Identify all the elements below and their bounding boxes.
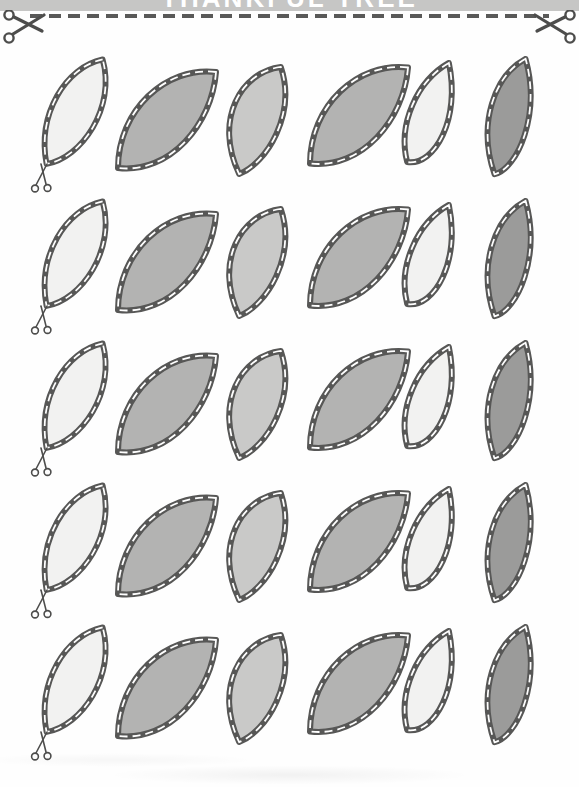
mini-scissors-icon [28, 589, 56, 621]
leaf-border [405, 205, 452, 304]
leaf-cutout [391, 201, 471, 316]
leaf-cutout [211, 62, 303, 181]
leaf-border [229, 351, 285, 458]
leaf-cutout [108, 634, 226, 746]
leaf-row [0, 621, 579, 763]
leaf-border [488, 59, 531, 174]
leaf-cutout [391, 485, 471, 600]
leaf-cutout [475, 480, 547, 610]
leaf-border [488, 485, 531, 600]
leaf-row [0, 195, 579, 337]
leaf-cutout [108, 208, 226, 320]
leaf-cutout [211, 346, 303, 465]
leaf-border [405, 63, 452, 162]
leaf-border [118, 639, 216, 736]
mini-scissors-icon [28, 305, 56, 337]
leaf-border [229, 493, 285, 600]
leaf-border [488, 627, 531, 742]
leaf-cutout [108, 492, 226, 604]
mini-scissors-icon [28, 447, 56, 479]
mini-scissors-icon [28, 163, 56, 195]
leaf-row [0, 53, 579, 195]
leaf-border [118, 497, 216, 594]
leaf-cutout [211, 204, 303, 323]
leaf-border [405, 631, 452, 730]
leaf-cutout [108, 66, 226, 178]
leaf-row [0, 337, 579, 479]
leaf-cutout [475, 338, 547, 468]
leaf-cutout [211, 488, 303, 607]
leaf-border [488, 201, 531, 316]
leaf-border [229, 67, 285, 174]
leaf-border [118, 71, 216, 168]
leaf-cutout [475, 196, 547, 326]
leaf-cutout [475, 622, 547, 752]
leaf-border [488, 343, 531, 458]
leaf-cutout [475, 54, 547, 184]
leaf-cutout [391, 343, 471, 458]
leaf-cutout [108, 350, 226, 462]
leaf-cutout [391, 627, 471, 742]
leaf-border [405, 489, 452, 588]
leaf-border [405, 347, 452, 446]
leaf-cutout [211, 630, 303, 749]
leaf-border [118, 213, 216, 310]
leaf-row [0, 479, 579, 621]
leaf-border [118, 355, 216, 452]
leaf-cutout [391, 59, 471, 174]
leaf-border [229, 209, 285, 316]
mini-scissors-icon [28, 731, 56, 763]
leaf-grid [0, 0, 579, 787]
leaf-border [229, 635, 285, 742]
